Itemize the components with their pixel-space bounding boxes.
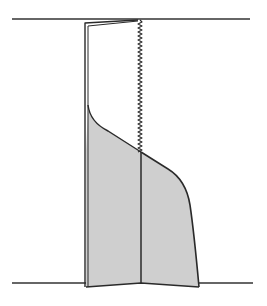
cross-section-diagram <box>0 0 267 306</box>
zigzag-wire-line <box>138 20 142 152</box>
diagram-canvas <box>0 0 267 306</box>
shaded-region <box>86 110 199 287</box>
